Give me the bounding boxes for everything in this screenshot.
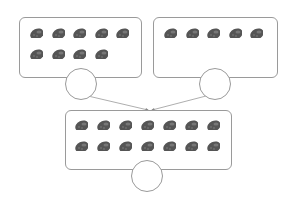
strawberry-icon	[72, 48, 86, 59]
strawberry-icon	[94, 27, 108, 38]
strawberry-icon	[185, 27, 199, 38]
strawberry-icon	[162, 119, 176, 130]
strawberry-icon	[51, 48, 65, 59]
strawberry-icon	[51, 27, 65, 38]
left-group-answer-circle[interactable]	[65, 68, 97, 100]
total-group-answer-circle[interactable]	[131, 160, 163, 192]
right-group-answer-circle[interactable]	[199, 68, 231, 100]
strawberry-icon	[29, 48, 43, 59]
strawberry-icon	[206, 140, 220, 151]
strawberry-icon	[74, 140, 88, 151]
strawberry-icon	[249, 27, 263, 38]
strawberry-icon	[162, 140, 176, 151]
strawberry-icon	[163, 27, 177, 38]
strawberry-icon	[140, 119, 154, 130]
strawberry-icon	[184, 140, 198, 151]
strawberry-icon	[228, 27, 242, 38]
strawberry-icon	[96, 119, 110, 130]
strawberry-icon	[140, 140, 154, 151]
strawberry-icon	[29, 27, 43, 38]
strawberry-icon	[96, 140, 110, 151]
strawberry-icon	[206, 27, 220, 38]
strawberry-icon	[206, 119, 220, 130]
strawberry-icon	[72, 27, 86, 38]
strawberry-icon	[118, 140, 132, 151]
strawberry-icon	[115, 27, 129, 38]
strawberry-icon	[118, 119, 132, 130]
strawberry-icon	[74, 119, 88, 130]
strawberry-icon	[94, 48, 108, 59]
strawberry-icon	[184, 119, 198, 130]
